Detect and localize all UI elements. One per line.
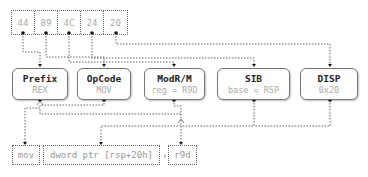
byte-cell: 24 <box>81 11 104 34</box>
field-value: base = RSP <box>228 85 279 96</box>
field-value: 0x20 <box>319 85 339 96</box>
byte-cell: 44 <box>12 11 35 34</box>
field-value: REX <box>32 85 47 96</box>
field-name: DISP <box>318 73 341 85</box>
field-disp: DISP 0x20 <box>300 68 358 100</box>
field-name: ModR/M <box>157 73 191 85</box>
asm-mnemonic: mov <box>12 145 40 165</box>
field-name: Prefix <box>23 73 57 85</box>
field-name: OpCode <box>87 73 121 85</box>
field-sib: SIB base = RSP <box>217 68 290 100</box>
field-name: SIB <box>245 73 262 85</box>
byte-cell: 20 <box>104 11 127 34</box>
field-modrm: ModR/M reg = R9D <box>144 68 205 100</box>
instruction-bytes: 44 89 4C 24 20 <box>11 10 128 35</box>
byte-cell: 89 <box>35 11 58 34</box>
asm-operand-src: r9d <box>168 145 197 165</box>
byte-cell: 4C <box>58 11 81 34</box>
asm-operand-dest: dword ptr [rsp+20h] <box>43 145 160 165</box>
field-value: MOV <box>96 85 111 96</box>
field-prefix: Prefix REX <box>12 68 68 100</box>
field-opcode: OpCode MOV <box>77 68 131 100</box>
field-value: reg = R9D <box>151 85 197 96</box>
